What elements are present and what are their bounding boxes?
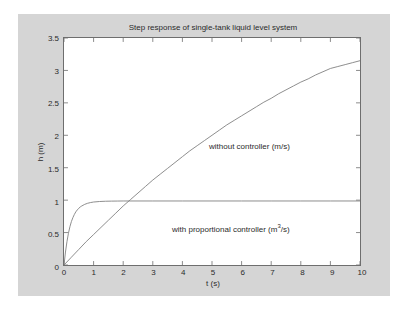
y-tick-label: 0.5 <box>48 230 59 239</box>
annotation-without-controller: without controller (m/s) <box>209 142 290 151</box>
y-tick-label: 3 <box>55 66 59 75</box>
y-axis-label: h (m) <box>36 142 45 161</box>
series-line-0 <box>64 61 360 265</box>
x-tick-label: 4 <box>181 268 185 277</box>
y-tick-label: 0 <box>55 263 59 272</box>
x-tick-label: 2 <box>121 268 125 277</box>
x-tick-label: 3 <box>151 268 155 277</box>
y-tick-label: 3.5 <box>48 34 59 43</box>
x-tick-label: 9 <box>330 268 334 277</box>
figure-panel: Step response of single-tank liquid leve… <box>18 14 390 296</box>
y-tick-label: 2 <box>55 132 59 141</box>
x-tick-label: 1 <box>92 268 96 277</box>
y-tick-label: 2.5 <box>48 99 59 108</box>
plot-area: Step response of single-tank liquid leve… <box>63 37 361 266</box>
x-tick-label: 5 <box>211 268 215 277</box>
x-axis-label: t (s) <box>64 279 362 288</box>
x-tick-label: 7 <box>270 268 274 277</box>
x-tick-label: 10 <box>358 268 367 277</box>
x-tick-label: 8 <box>300 268 304 277</box>
annotation-with-proportional-controller: with proportional controller (m3/s) <box>172 225 290 234</box>
y-tick-label: 1.5 <box>48 164 59 173</box>
x-tick-label: 6 <box>241 268 245 277</box>
x-tick-label: 0 <box>62 268 66 277</box>
y-tick-label: 1 <box>55 197 59 206</box>
chart-title: Step response of single-tank liquid leve… <box>64 23 362 32</box>
